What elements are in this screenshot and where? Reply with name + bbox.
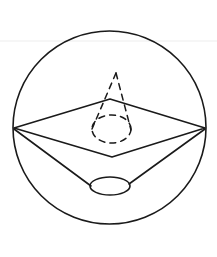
canvas-background [0, 0, 217, 257]
geometry-figure: Cone inscribed in sphere with rhombus cr… [0, 0, 217, 257]
